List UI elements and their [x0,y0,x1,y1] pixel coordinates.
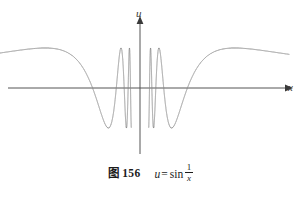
figure-number-label: 图 156 [108,164,141,182]
fraction-denominator: x [185,173,193,183]
plot-area: u x [0,0,301,160]
figure-formula: u = sin 1 x [154,164,193,184]
formula-sin-function: sin [170,165,183,183]
fraction-numerator: 1 [185,163,194,172]
y-axis-label: u [136,8,142,19]
plot-svg [0,0,301,160]
formula-equals-sign: = [161,165,168,183]
figure-caption: 图 156 u = sin 1 x [0,160,301,197]
figure-container: u x 图 156 u = sin 1 x [0,0,301,197]
formula-fraction: 1 x [185,163,194,183]
formula-variable-u: u [154,165,160,183]
x-axis-label: x [288,82,293,93]
